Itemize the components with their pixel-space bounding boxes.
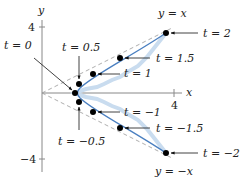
x-axis-label: x	[186, 86, 193, 99]
point-t-minus-2	[163, 150, 169, 156]
label-t-1: t = 1	[124, 67, 152, 80]
point-t-1	[90, 71, 96, 77]
label-t-1.5: t = 1.5	[156, 52, 194, 65]
point-t-0	[72, 90, 78, 96]
point-t-2	[163, 30, 169, 36]
label-t-minus-1: t = −1	[124, 106, 161, 119]
point-t-minus-0.5	[76, 99, 82, 105]
point-t-minus-1.5	[117, 125, 123, 131]
label-t-2: t = 2	[203, 27, 231, 40]
hyperbola-diagram: y 4 −4 x 4 t = 0 t = 0.5 t = 1 t = 1.5 t…	[0, 0, 244, 182]
asymptote-label-y-equals-x: y = x	[157, 7, 187, 20]
y-tick-label-4: 4	[28, 21, 35, 34]
label-t-minus-0.5: t = −0.5	[58, 135, 105, 148]
arrow-t-0	[34, 58, 72, 90]
label-t-minus-2: t = −2	[203, 147, 240, 160]
asymptote-label-y-equals-minus-x: y = −x	[154, 165, 194, 178]
label-t-minus-1.5: t = −1.5	[156, 122, 203, 135]
point-t-1.5	[117, 55, 123, 61]
y-tick-label-minus-4: −4	[20, 153, 36, 166]
label-t-0.5: t = 0.5	[62, 41, 100, 54]
label-t-0: t = 0	[4, 39, 32, 52]
y-axis-label: y	[37, 4, 45, 17]
point-t-0.5	[76, 81, 82, 87]
x-tick-label-4: 4	[171, 99, 178, 112]
point-t-minus-1	[90, 109, 96, 115]
